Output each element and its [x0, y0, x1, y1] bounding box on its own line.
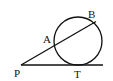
diagram-canvas: P A B T — [0, 0, 113, 81]
label-a: A — [43, 33, 51, 45]
label-p: P — [14, 67, 20, 79]
label-b: B — [88, 8, 95, 20]
label-t: T — [74, 68, 81, 80]
